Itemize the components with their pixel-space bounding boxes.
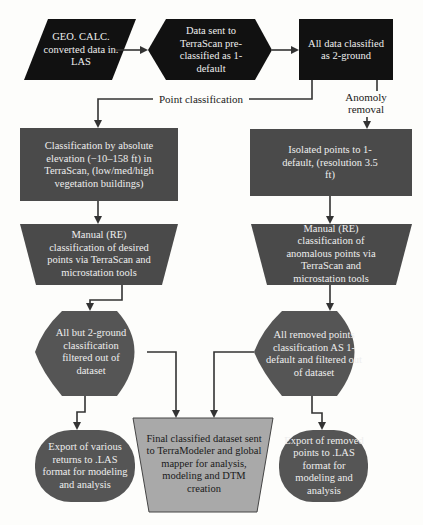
edge-filter-left-export [77,396,85,428]
anomaly-removal-label: Anomoly removal [340,91,392,115]
elevation-label: Classification by absolute elevation (−1… [28,140,170,190]
input-label: GEO. CALC. converted data in. LAS [38,31,124,69]
manual-left-label: Manual (RE) classification of desired po… [46,229,152,279]
final-node: Final classified dataset sent to TerraMo… [146,420,262,508]
terrascan-label: Data sent to TerraScan pre-classified as… [166,25,256,75]
filter-left-node: All but 2-ground classification filtered… [50,318,132,386]
edge-filter-right-final [214,352,254,416]
filter-left-label: All but 2-ground classification filtered… [50,327,132,377]
ground-node: All data classified as 2-ground [305,22,387,78]
manual-right-node: Manual (RE) classification of anomalous … [276,224,386,284]
isolated-label: Isolated points to 1-default, (resolutio… [280,144,380,182]
export-left-label: Export of various returns to .LAS format… [40,441,130,491]
export-right-label: Export of removed points to .LAS format … [282,435,366,498]
export-right-node: Export of removed points to .LAS format … [282,432,366,500]
edge-filter-right-export [312,396,322,428]
isolated-node: Isolated points to 1-default, (resolutio… [280,131,380,195]
edge-manual-filter-left [90,285,122,309]
elevation-node: Classification by absolute elevation (−1… [28,130,170,200]
ground-label: All data classified as 2-ground [305,38,387,63]
edge-filter-left-final [147,352,176,416]
terrascan-node: Data sent to TerraScan pre-classified as… [166,22,256,78]
filter-right-label: All removed points classification AS 1-d… [262,329,366,379]
final-label: Final classified dataset sent to TerraMo… [146,433,262,496]
filter-right-node: All removed points classification AS 1-d… [262,316,366,392]
manual-left-node: Manual (RE) classification of desired po… [46,224,152,284]
input-node: GEO. CALC. converted data in. LAS [38,22,124,78]
manual-right-label: Manual (RE) classification of anomalous … [276,223,386,286]
export-left-node: Export of various returns to .LAS format… [40,432,130,500]
point-classification-label: Point classification [153,93,249,105]
